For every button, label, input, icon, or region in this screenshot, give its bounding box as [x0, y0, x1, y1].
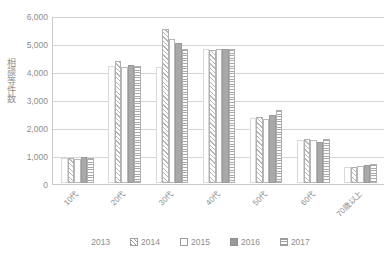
- horizontal-lines-swatch-icon: [280, 238, 288, 246]
- bar-20代-2017: [134, 66, 141, 183]
- legend-label: 2017: [291, 238, 310, 247]
- x-axis-tick-cell: 20代: [99, 186, 146, 226]
- bar-group: [54, 17, 101, 183]
- y-axis-tick: 5,000: [27, 41, 48, 50]
- bar-group: [148, 17, 195, 183]
- solid-gray-swatch-icon: [230, 238, 238, 246]
- bar-50代-2017: [276, 110, 283, 183]
- x-axis-tick-text: 60代: [299, 189, 317, 207]
- y-axis-tick-labels: 6,0005,0004,0003,0002,0001,0000: [16, 0, 50, 259]
- legend-item-2016[interactable]: 2016: [230, 238, 260, 247]
- y-axis-tick: 0: [43, 181, 48, 190]
- y-axis-tick: 1,000: [27, 153, 48, 162]
- legend-item-2014[interactable]: 2014: [130, 238, 160, 247]
- x-axis-tick-cell: 10代: [52, 186, 99, 226]
- bar-group: [101, 17, 148, 183]
- x-axis-tick-text: 10代: [62, 189, 80, 207]
- legend-item-2017[interactable]: 2017: [280, 238, 310, 247]
- outline-swatch-icon: [180, 238, 188, 246]
- x-axis-tick-cell: 30代: [147, 186, 194, 226]
- legend-label: 2013: [91, 238, 110, 247]
- bar-group: [290, 17, 337, 183]
- bar-group: [337, 17, 384, 183]
- x-axis-tick-cell: 50代: [242, 186, 289, 226]
- bar-group: [243, 17, 290, 183]
- bar-30代-2017: [182, 49, 189, 183]
- y-axis-tick: 2,000: [27, 125, 48, 134]
- x-axis-tick-cell: 60代: [289, 186, 336, 226]
- legend-label: 2015: [191, 238, 210, 247]
- bar-chart: 相談等件数 6,0005,0004,0003,0002,0001,0000 10…: [0, 0, 390, 259]
- x-axis-tick-text: 50代: [251, 189, 269, 207]
- bar-60代-2017: [323, 139, 330, 183]
- bar-40代-2017: [229, 49, 236, 183]
- y-axis-tick: 4,000: [27, 69, 48, 78]
- white-swatch-icon: [80, 238, 88, 246]
- bar-groups: [54, 17, 384, 183]
- x-axis-tick-text: 20代: [109, 189, 127, 207]
- x-axis-tick-text: 70歳以上: [335, 189, 365, 219]
- legend-label: 2014: [141, 238, 160, 247]
- x-axis-tick-cell: 70歳以上: [337, 186, 384, 226]
- x-axis-tick-cell: 40代: [194, 186, 241, 226]
- legend-label: 2016: [241, 238, 260, 247]
- x-axis-tick-text: 40代: [204, 189, 222, 207]
- legend-item-2015[interactable]: 2015: [180, 238, 210, 247]
- diagonal-hatch-swatch-icon: [130, 238, 138, 246]
- bar-group: [195, 17, 242, 183]
- x-axis-tick-text: 30代: [157, 189, 175, 207]
- y-axis-tick: 3,000: [27, 97, 48, 106]
- x-axis-tick-labels: 10代20代30代40代50代60代70歳以上: [52, 186, 384, 226]
- legend-item-2013[interactable]: 2013: [80, 238, 110, 247]
- plot-area: [52, 17, 384, 185]
- chart-legend: 20132014201520162017: [0, 232, 390, 252]
- y-axis-title: 相談等件数: [2, 58, 16, 103]
- y-axis-tick: 6,000: [27, 13, 48, 22]
